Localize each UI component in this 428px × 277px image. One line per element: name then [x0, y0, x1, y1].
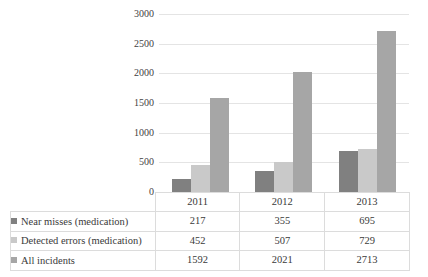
bar: [377, 31, 396, 192]
table-row: Near misses (medication)217355695: [11, 212, 410, 232]
table-value-cell: 1592: [155, 251, 240, 271]
bar: [191, 165, 210, 192]
series-label: All incidents: [21, 252, 75, 270]
table-value-cell: 507: [240, 231, 325, 251]
y-axis-tick-label: 2000: [134, 68, 154, 78]
bar-group: [326, 14, 409, 192]
y-axis-tick-labels: 300025002000150010005000: [118, 14, 154, 192]
data-table: 201120122013Near misses (medication)2173…: [10, 192, 410, 271]
table-value-cell: 355: [240, 212, 325, 232]
table-value-cell: 695: [325, 212, 410, 232]
series-label: Near misses (medication): [21, 213, 128, 231]
bar: [358, 149, 377, 192]
table-column-header: 2012: [240, 193, 325, 212]
bar: [210, 98, 229, 192]
y-axis-title: Number: [104, 0, 118, 42]
bar-group: [242, 14, 325, 192]
y-axis-tick-label: 2500: [134, 39, 154, 49]
legend-swatch-icon: [11, 218, 17, 224]
bar: [172, 179, 191, 192]
legend-item: All incidents: [11, 251, 156, 271]
y-axis-tick-label: 500: [139, 157, 154, 167]
legend-item: Near misses (medication): [11, 212, 156, 232]
table-value-cell: 452: [155, 231, 240, 251]
chart-figure: Number 300025002000150010005000 20112012…: [0, 0, 428, 277]
table-value-cell: 2713: [325, 251, 410, 271]
bar: [274, 162, 293, 192]
bar: [339, 151, 358, 192]
table-corner-cell: [11, 193, 156, 212]
bar-series-container: [159, 14, 409, 192]
table-column-header: 2011: [155, 193, 240, 212]
plot-area: [159, 14, 409, 192]
table-row: Detected errors (medication)452507729: [11, 231, 410, 251]
y-axis-tick-label: 1500: [134, 98, 154, 108]
series-label: Detected errors (medication): [21, 232, 142, 250]
y-axis-tick-label: 1000: [134, 128, 154, 138]
table-row: All incidents159220212713: [11, 251, 410, 271]
table-header-row: 201120122013: [11, 193, 410, 212]
table-value-cell: 2021: [240, 251, 325, 271]
bar: [293, 72, 312, 192]
legend-swatch-icon: [11, 257, 17, 263]
bar-group: [159, 14, 242, 192]
y-axis-tick-label: 3000: [134, 9, 154, 19]
bar: [255, 171, 274, 192]
legend-item: Detected errors (medication): [11, 231, 156, 251]
table-value-cell: 729: [325, 231, 410, 251]
table-value-cell: 217: [155, 212, 240, 232]
table-column-header: 2013: [325, 193, 410, 212]
legend-swatch-icon: [11, 237, 17, 243]
bar-chart: Number 300025002000150010005000: [0, 0, 428, 196]
